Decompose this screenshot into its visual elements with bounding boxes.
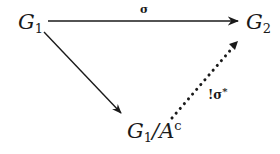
node-g1-subscript: 1 xyxy=(35,21,43,36)
arrow-unique-sigma-star xyxy=(172,46,234,118)
arrow-unique-sigma-star-label: !σ* xyxy=(208,86,228,102)
node-quotient-base: G xyxy=(127,119,144,143)
label-star: * xyxy=(222,86,228,97)
node-g2: G2 xyxy=(246,10,271,36)
arrow-projection xyxy=(44,32,121,113)
node-g1: G1 xyxy=(18,10,43,36)
node-quotient-subscript: 1 xyxy=(144,130,152,145)
commutative-diagram: G1 G2 G1/Ac σ !σ* xyxy=(0,0,280,154)
arrow-sigma-label: σ xyxy=(140,3,148,16)
node-g1-base: G xyxy=(18,10,35,34)
node-g2-subscript: 2 xyxy=(263,21,271,36)
node-quotient-superscript: c xyxy=(174,118,181,133)
node-quotient-denominator: A xyxy=(157,119,174,143)
node-quotient: G1/Ac xyxy=(127,118,182,145)
label-sigma: σ xyxy=(213,88,222,102)
node-g2-base: G xyxy=(246,10,263,34)
arrow-unique-sigma-star-head xyxy=(229,41,238,50)
